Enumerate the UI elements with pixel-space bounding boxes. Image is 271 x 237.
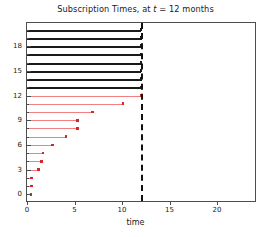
- chart-title-suffix: = 12 months: [157, 4, 214, 14]
- chart-figure: Subscription Times, at t = 12 months 051…: [0, 0, 271, 237]
- censored-duration-bar: [27, 71, 141, 73]
- y-axis-tick: [27, 120, 31, 121]
- x-axis-tick: [217, 201, 218, 205]
- event-marker: [51, 144, 54, 147]
- plot-area: 051015200369121518: [26, 22, 256, 202]
- event-duration-bar: [27, 96, 141, 97]
- event-marker: [37, 168, 40, 171]
- event-marker: [91, 111, 94, 114]
- y-axis-tick-label: 12: [13, 92, 22, 100]
- event-duration-bar: [27, 137, 66, 138]
- censored-duration-bar: [27, 87, 141, 89]
- event-marker: [65, 135, 68, 138]
- plot-inner: [27, 23, 255, 201]
- censored-duration-bar: [27, 46, 141, 48]
- x-axis-label: time: [0, 218, 271, 227]
- y-axis-tick: [27, 170, 31, 171]
- y-axis-tick-label: 15: [13, 67, 22, 75]
- censored-duration-bar: [27, 79, 141, 81]
- y-axis-minor-tick: [27, 87, 29, 88]
- y-axis-tick: [27, 46, 31, 47]
- y-axis-tick-label: 3: [18, 166, 22, 174]
- y-axis-minor-tick: [27, 112, 29, 113]
- event-marker: [42, 152, 45, 155]
- censored-duration-bar: [27, 63, 141, 65]
- y-axis-minor-tick: [27, 104, 29, 105]
- y-axis-minor-tick: [27, 54, 29, 55]
- x-axis-tick-label: 5: [72, 206, 76, 214]
- y-axis-minor-tick: [27, 178, 29, 179]
- y-axis-tick: [27, 71, 31, 72]
- event-duration-bar: [27, 120, 77, 121]
- x-axis-tick: [75, 201, 76, 205]
- event-marker: [122, 102, 125, 105]
- event-duration-bar: [27, 104, 123, 105]
- event-duration-bar: [27, 153, 43, 154]
- y-axis-minor-tick: [27, 128, 29, 129]
- y-axis-tick: [27, 145, 31, 146]
- y-axis-tick-label: 9: [18, 116, 22, 124]
- y-axis-minor-tick: [27, 137, 29, 138]
- y-axis-minor-tick: [27, 63, 29, 64]
- x-axis-tick-label: 10: [118, 206, 127, 214]
- event-duration-bar: [27, 145, 53, 146]
- y-axis-tick: [27, 194, 31, 195]
- event-duration-bar: [27, 112, 93, 113]
- censored-duration-bar: [27, 38, 141, 40]
- y-axis-tick: [27, 96, 31, 97]
- x-axis-tick: [27, 201, 28, 205]
- y-axis-minor-tick: [27, 79, 29, 80]
- x-axis-tick: [170, 201, 171, 205]
- event-marker: [76, 127, 79, 130]
- y-axis-tick-label: 18: [13, 42, 22, 50]
- y-axis-minor-tick: [27, 153, 29, 154]
- event-marker: [76, 119, 79, 122]
- y-axis-minor-tick: [27, 186, 29, 187]
- event-marker: [40, 160, 43, 163]
- x-axis-tick: [122, 201, 123, 205]
- current-time-vline: [141, 23, 143, 201]
- x-axis-tick-label: 0: [25, 206, 29, 214]
- y-axis-minor-tick: [27, 30, 29, 31]
- y-axis-minor-tick: [27, 161, 29, 162]
- chart-title: Subscription Times, at t = 12 months: [0, 4, 271, 14]
- event-duration-bar: [27, 128, 77, 129]
- y-axis-minor-tick: [27, 38, 29, 39]
- event-marker: [30, 185, 33, 188]
- event-marker: [30, 177, 33, 180]
- x-axis-tick-label: 20: [213, 206, 222, 214]
- y-axis-tick-label: 0: [18, 190, 22, 198]
- x-axis-tick-label: 15: [165, 206, 174, 214]
- y-axis-tick-label: 6: [18, 141, 22, 149]
- censored-duration-bar: [27, 54, 141, 56]
- censored-duration-bar: [27, 30, 141, 32]
- chart-title-prefix: Subscription Times, at: [57, 4, 153, 14]
